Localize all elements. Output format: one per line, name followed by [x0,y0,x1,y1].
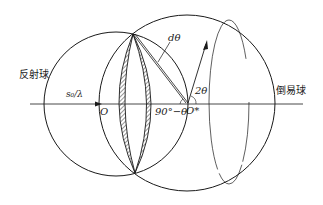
incident-vector-label: s₀/λ [66,90,83,99]
d-theta-line-1 [133,34,186,103]
reflection-sphere-label: 反射球 [19,70,49,80]
hatched-band-right [133,34,151,173]
two-theta-label: 2θ [195,86,207,96]
cone-ellipse [209,20,249,184]
arrow-head-icon [203,40,208,50]
angle-arc [191,96,196,104]
d-theta-label: dθ [168,33,180,43]
hatched-band-left [119,34,135,173]
reciprocal-sphere-label: 倒易球 [276,86,306,96]
ewald-sphere-diagram [0,0,323,205]
origin-o-label: O [100,107,108,117]
d-theta-leader [158,42,170,62]
origin-o-prime-label: O* [186,106,199,116]
angle-arc-small [180,99,183,104]
ninety-minus-theta-label: 90°−θ [155,107,187,117]
